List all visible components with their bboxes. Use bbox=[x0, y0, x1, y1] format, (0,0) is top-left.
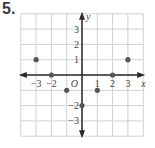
y-tick-label: 2 bbox=[74, 39, 79, 50]
x-axis-left-arrow-icon bbox=[19, 72, 27, 78]
y-axis-label: y bbox=[85, 11, 91, 22]
x-tick-label: 3 bbox=[125, 78, 130, 89]
data-point bbox=[34, 57, 39, 62]
data-point bbox=[64, 88, 69, 93]
y-axis-up-arrow-icon bbox=[79, 12, 85, 20]
data-point bbox=[79, 103, 84, 108]
x-tick-label: −3 bbox=[31, 78, 42, 89]
y-axis-down-arrow-icon bbox=[79, 130, 85, 138]
x-axis-label: x bbox=[140, 78, 146, 89]
x-tick-label: −2 bbox=[46, 78, 57, 89]
y-tick-label: 3 bbox=[74, 24, 79, 35]
x-tick-label: 1 bbox=[95, 78, 100, 89]
origin-label: O bbox=[71, 78, 78, 89]
coordinate-plane: −3−2123321−2−3Oxy bbox=[0, 0, 155, 148]
data-point bbox=[110, 72, 115, 77]
y-tick-label: −3 bbox=[68, 115, 79, 126]
data-point bbox=[125, 57, 130, 62]
data-point bbox=[95, 88, 100, 93]
data-point bbox=[49, 72, 54, 77]
y-tick-label: −2 bbox=[68, 100, 79, 111]
y-tick-label: 1 bbox=[74, 54, 79, 65]
x-tick-label: 2 bbox=[110, 78, 115, 89]
